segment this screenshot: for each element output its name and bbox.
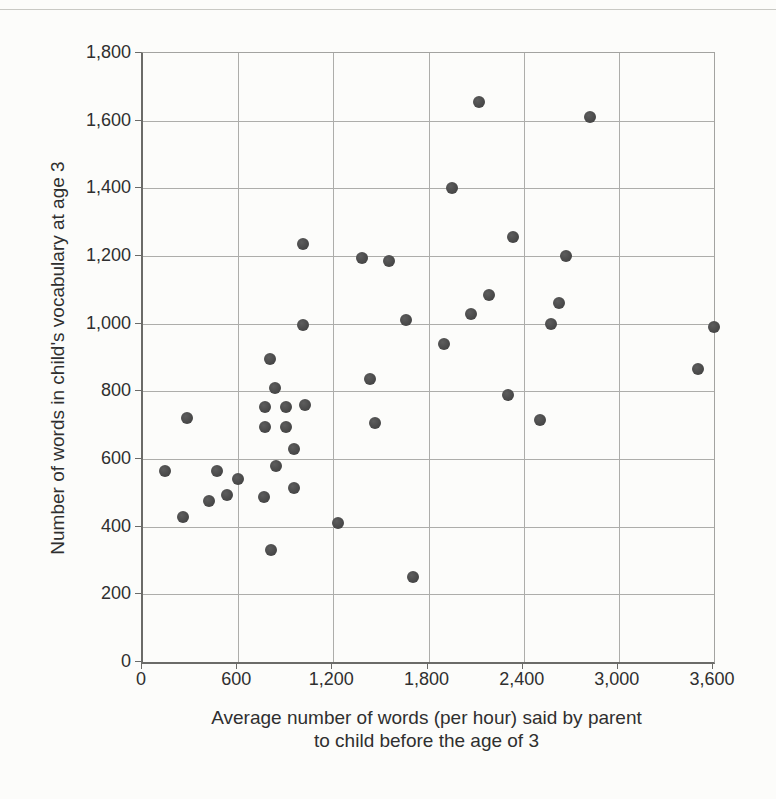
x-tick-mark bbox=[427, 663, 428, 669]
data-point bbox=[232, 473, 244, 485]
x-tick-label: 3,600 bbox=[667, 669, 757, 689]
data-point bbox=[383, 255, 395, 267]
data-point bbox=[369, 417, 381, 429]
data-point bbox=[400, 314, 412, 326]
y-tick-mark bbox=[135, 593, 141, 594]
x-tick-label: 0 bbox=[96, 669, 186, 689]
gridline bbox=[524, 53, 525, 662]
data-point bbox=[465, 308, 477, 320]
y-tick-mark bbox=[135, 458, 141, 459]
data-point bbox=[534, 414, 546, 426]
gridline bbox=[143, 121, 714, 122]
y-tick-mark bbox=[135, 390, 141, 391]
x-axis-title: Average number of words (per hour) said … bbox=[141, 706, 712, 752]
gridline bbox=[143, 527, 714, 528]
x-axis-title-line1: Average number of words (per hour) said … bbox=[141, 706, 712, 729]
y-axis-title: Number of words in child's vocabulary at… bbox=[47, 161, 69, 554]
x-tick-mark bbox=[141, 663, 142, 669]
y-tick-mark bbox=[135, 526, 141, 527]
data-point bbox=[364, 373, 376, 385]
y-tick-mark bbox=[135, 661, 141, 662]
y-tick-mark bbox=[135, 323, 141, 324]
data-point bbox=[270, 460, 282, 472]
gridline bbox=[143, 459, 714, 460]
data-point bbox=[407, 571, 419, 583]
data-point bbox=[265, 544, 277, 556]
data-point bbox=[553, 297, 565, 309]
y-tick-label: 0 bbox=[0, 652, 131, 670]
gridline bbox=[143, 391, 714, 392]
gridline bbox=[619, 53, 620, 662]
data-point bbox=[258, 491, 270, 503]
x-tick-mark bbox=[236, 663, 237, 669]
data-point bbox=[332, 517, 344, 529]
gridline bbox=[143, 188, 714, 189]
gridline bbox=[429, 53, 430, 662]
y-tick-label: 1,600 bbox=[0, 111, 131, 129]
x-tick-mark bbox=[331, 663, 332, 669]
data-point bbox=[280, 421, 292, 433]
data-point bbox=[560, 250, 572, 262]
gridline bbox=[143, 594, 714, 595]
data-point bbox=[299, 399, 311, 411]
data-point bbox=[297, 238, 309, 250]
data-point bbox=[203, 495, 215, 507]
scatter-plot-figure: 02004006008001,0001,2001,4001,6001,800 0… bbox=[0, 0, 776, 799]
data-point bbox=[269, 382, 281, 394]
x-axis-title-line2: to child before the age of 3 bbox=[141, 729, 712, 752]
x-tick-mark bbox=[712, 663, 713, 669]
x-tick-label: 600 bbox=[191, 669, 281, 689]
x-tick-label: 1,200 bbox=[286, 669, 376, 689]
gridline bbox=[238, 53, 239, 662]
x-tick-label: 2,400 bbox=[477, 669, 567, 689]
y-tick-label: 200 bbox=[0, 584, 131, 602]
plot-area bbox=[141, 52, 715, 664]
data-point bbox=[280, 401, 292, 413]
data-point bbox=[159, 465, 171, 477]
data-point bbox=[221, 489, 233, 501]
gridline bbox=[143, 324, 714, 325]
data-point bbox=[584, 111, 596, 123]
gridline bbox=[143, 256, 714, 257]
y-tick-mark bbox=[135, 52, 141, 53]
data-point bbox=[502, 389, 514, 401]
y-tick-mark bbox=[135, 255, 141, 256]
data-point bbox=[438, 338, 450, 350]
data-point bbox=[288, 443, 300, 455]
data-point bbox=[177, 511, 189, 523]
data-point bbox=[507, 231, 519, 243]
data-point bbox=[708, 321, 720, 333]
y-tick-mark bbox=[135, 120, 141, 121]
y-tick-label: 1,800 bbox=[0, 43, 131, 61]
data-point bbox=[181, 412, 193, 424]
data-point bbox=[259, 421, 271, 433]
data-point bbox=[356, 252, 368, 264]
data-point bbox=[211, 465, 223, 477]
x-tick-mark bbox=[617, 663, 618, 669]
data-point bbox=[288, 482, 300, 494]
x-tick-mark bbox=[522, 663, 523, 669]
x-tick-label: 3,000 bbox=[572, 669, 662, 689]
gridline bbox=[333, 53, 334, 662]
data-point bbox=[483, 289, 495, 301]
data-point bbox=[264, 353, 276, 365]
data-point bbox=[446, 182, 458, 194]
page-top-rule bbox=[0, 9, 776, 10]
data-point bbox=[259, 401, 271, 413]
y-tick-mark bbox=[135, 187, 141, 188]
data-point bbox=[545, 318, 557, 330]
data-point bbox=[473, 96, 485, 108]
data-point bbox=[297, 319, 309, 331]
x-tick-label: 1,800 bbox=[382, 669, 472, 689]
data-point bbox=[692, 363, 704, 375]
